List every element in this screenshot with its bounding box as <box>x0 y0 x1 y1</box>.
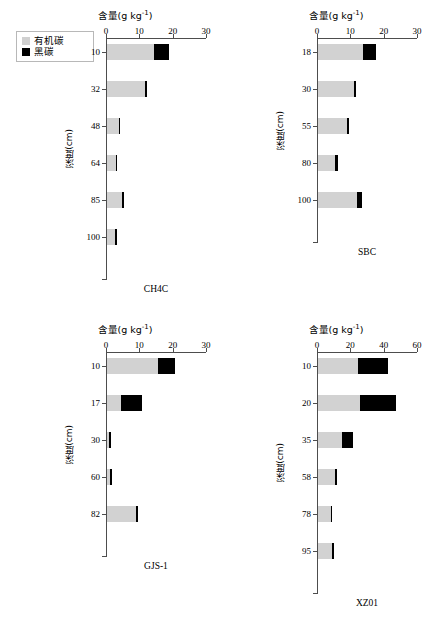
stacked-bar <box>318 192 362 208</box>
stacked-bar <box>318 118 349 134</box>
panel-title: XZ01 <box>331 598 403 608</box>
x-tick-mark <box>384 348 385 352</box>
bar-segment-black-carbon <box>335 469 337 485</box>
x-tick-mark <box>350 348 351 352</box>
y-tick-mark <box>313 440 317 441</box>
bar-segment-black-carbon <box>154 44 169 60</box>
bar-segment-black-carbon <box>347 118 349 134</box>
x-tick-mark <box>417 34 418 38</box>
x-axis-line <box>106 38 206 39</box>
stacked-bar <box>107 44 169 60</box>
y-axis-end-tick <box>102 279 106 280</box>
stacked-bar <box>107 192 124 208</box>
bar-segment-black-carbon <box>332 543 334 559</box>
bar-segment-organic-carbon <box>318 469 335 485</box>
y-tick-label: 20 <box>289 398 311 408</box>
y-tick-label: 85 <box>78 195 100 205</box>
stacked-bar <box>318 395 396 411</box>
bar-segment-black-carbon <box>136 506 138 522</box>
y-tick-mark <box>313 366 317 367</box>
panel-title: GJS-1 <box>120 561 192 571</box>
stacked-bar <box>318 358 388 374</box>
bar-segment-black-carbon <box>158 358 175 374</box>
bar-segment-black-carbon <box>116 155 118 171</box>
bar-segment-black-carbon <box>354 81 356 97</box>
bar-segment-black-carbon <box>119 118 121 134</box>
bar-segment-organic-carbon <box>318 44 363 60</box>
x-tick-mark <box>417 348 418 352</box>
y-tick-mark <box>102 163 106 164</box>
y-axis-title: 深度(cm) <box>273 111 286 150</box>
figure-root: 有机碳 黑碳 含量(g kg-1)01020301032486485100深度(… <box>0 0 438 631</box>
bar-segment-organic-carbon <box>107 229 115 245</box>
x-tick-labels: 0102030 <box>56 26 174 38</box>
y-tick-label: 55 <box>289 121 311 131</box>
bar-segment-black-carbon <box>145 81 147 97</box>
y-tick-label: 10 <box>78 361 100 371</box>
bar-segment-black-carbon <box>109 432 110 448</box>
y-tick-label: 58 <box>289 472 311 482</box>
bar-segment-organic-carbon <box>318 506 331 522</box>
y-tick-mark <box>313 200 317 201</box>
y-tick-label: 82 <box>78 509 100 519</box>
bar-segment-organic-carbon <box>107 192 122 208</box>
bar-segment-organic-carbon <box>107 506 136 522</box>
y-tick-label: 30 <box>78 435 100 445</box>
bar-segment-organic-carbon <box>107 118 119 134</box>
x-tick-labels: 0102030 <box>267 26 385 38</box>
bar-segment-organic-carbon <box>107 358 158 374</box>
x-tick-mark <box>206 34 207 38</box>
y-tick-label: 100 <box>78 232 100 242</box>
x-axis-line <box>317 38 417 39</box>
bar-segment-organic-carbon <box>318 81 354 97</box>
bar-segment-black-carbon <box>342 432 353 448</box>
stacked-bar <box>107 118 120 134</box>
x-tick-labels: 0204060 <box>267 340 385 352</box>
y-tick-mark <box>313 126 317 127</box>
x-tick-mark <box>384 34 385 38</box>
y-tick-mark <box>313 551 317 552</box>
bar-segment-black-carbon <box>360 395 397 411</box>
x-axis-title: 含量(g kg-1) <box>66 8 184 22</box>
y-tick-mark <box>102 477 106 478</box>
y-tick-mark <box>102 403 106 404</box>
y-tick-mark <box>102 514 106 515</box>
bar-segment-black-carbon <box>358 358 388 374</box>
bar-segment-black-carbon <box>122 192 124 208</box>
y-tick-label: 18 <box>289 47 311 57</box>
stacked-bar <box>318 44 376 60</box>
x-axis-title: 含量(g kg-1) <box>66 322 184 336</box>
y-tick-label: 10 <box>78 47 100 57</box>
y-tick-label: 10 <box>289 361 311 371</box>
y-tick-label: 100 <box>289 195 311 205</box>
bar-segment-black-carbon <box>335 155 338 171</box>
y-tick-mark <box>313 163 317 164</box>
bar-segment-black-carbon <box>110 469 111 485</box>
legend-label-black-carbon: 黑碳 <box>34 47 54 57</box>
y-tick-mark <box>313 52 317 53</box>
x-axis-title: 含量(g kg-1) <box>277 322 395 336</box>
x-tick-mark <box>173 348 174 352</box>
bar-segment-black-carbon <box>363 44 376 60</box>
y-tick-label: 35 <box>289 435 311 445</box>
y-axis-title: 深度(cm) <box>62 425 75 464</box>
bar-segment-organic-carbon <box>107 395 121 411</box>
y-tick-mark <box>102 52 106 53</box>
y-tick-mark <box>313 477 317 478</box>
panel-title: SBC <box>331 247 403 257</box>
y-tick-label: 60 <box>78 472 100 482</box>
y-tick-mark <box>313 514 317 515</box>
y-tick-label: 95 <box>289 546 311 556</box>
stacked-bar <box>318 543 334 559</box>
x-tick-mark <box>206 348 207 352</box>
bar-segment-organic-carbon <box>318 395 360 411</box>
bar-segment-black-carbon <box>115 229 117 245</box>
y-tick-label: 78 <box>289 509 311 519</box>
y-tick-label: 64 <box>78 158 100 168</box>
x-axis-title: 含量(g kg-1) <box>277 8 395 22</box>
stacked-bar <box>107 506 138 522</box>
stacked-bar <box>107 358 175 374</box>
stacked-bar <box>318 506 332 522</box>
x-axis-line <box>106 352 206 353</box>
y-axis-title: 深度(cm) <box>62 129 75 168</box>
